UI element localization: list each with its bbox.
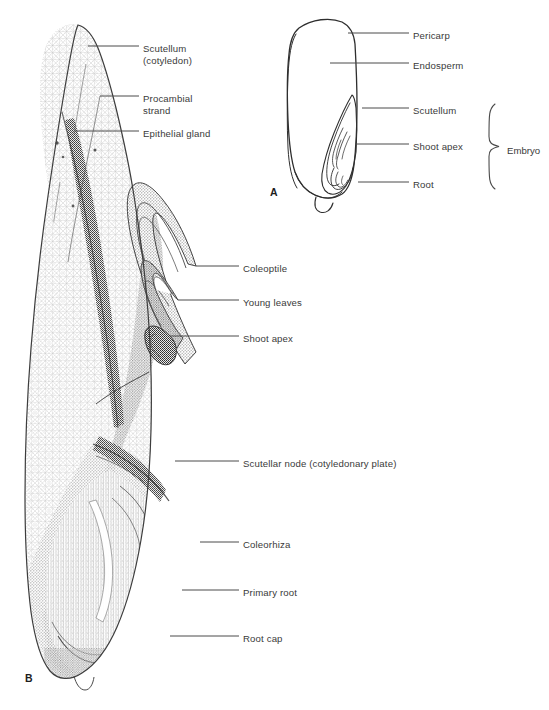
panel-letter-a: A bbox=[270, 186, 278, 198]
label-embryo-group: Embryo bbox=[507, 145, 540, 156]
label-primary-root: Primary root bbox=[243, 587, 297, 599]
labels-layer: APericarpEndospermScutellumShoot apexRoo… bbox=[0, 0, 549, 710]
label-root-cap: Root cap bbox=[243, 633, 283, 645]
label-root: Root bbox=[413, 179, 434, 191]
panel-letter-b: B bbox=[25, 672, 33, 684]
label-coleoptile: Coleoptile bbox=[243, 263, 287, 275]
label-scutellum-cotyledon-line2: (cotyledon) bbox=[143, 55, 192, 66]
label-procambial-strand-line2: strand bbox=[143, 105, 171, 116]
figure-container: APericarpEndospermScutellumShoot apexRoo… bbox=[0, 0, 549, 710]
label-shoot-apex-b: Shoot apex bbox=[243, 333, 293, 345]
label-scutellum-cotyledon-line1: Scutellum bbox=[143, 43, 186, 54]
label-scutellar-node: Scutellar node (cotyledonary plate) bbox=[243, 458, 397, 470]
label-procambial-strand-line1: Procambial bbox=[143, 93, 193, 104]
label-scutellum-cotyledon: Scutellum(cotyledon) bbox=[143, 43, 253, 66]
label-young-leaves: Young leaves bbox=[243, 297, 302, 309]
label-coleorhiza: Coleorhiza bbox=[243, 539, 290, 551]
label-shoot-apex: Shoot apex bbox=[413, 141, 463, 153]
label-scutellum: Scutellum bbox=[413, 105, 456, 117]
label-pericarp: Pericarp bbox=[413, 30, 450, 42]
label-endosperm: Endosperm bbox=[413, 60, 463, 72]
label-epithelial-gland: Epithelial gland bbox=[143, 128, 210, 140]
label-procambial-strand: Procambialstrand bbox=[143, 93, 253, 116]
